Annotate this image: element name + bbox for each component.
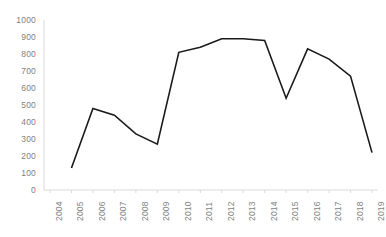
data-series-line xyxy=(71,39,372,168)
line-chart: 01002003004005006007008009001000 2004200… xyxy=(0,0,386,237)
plot-area xyxy=(0,0,386,237)
